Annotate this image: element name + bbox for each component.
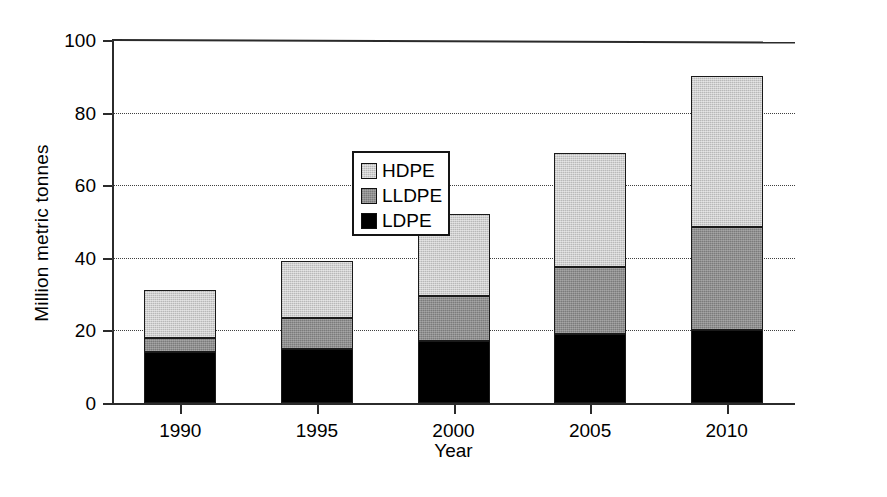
y-axis-tick [103, 330, 112, 332]
chart-figure: Million metric tonnes 020406080100 19901… [0, 0, 887, 497]
legend-item[interactable]: HDPE [361, 158, 448, 183]
y-axis-tick [103, 113, 112, 115]
legend-item[interactable]: LLDPE [361, 183, 448, 208]
y-axis-tick-label: 80 [46, 104, 96, 123]
legend-swatch-hdpe-icon [361, 163, 377, 179]
x-axis-tick [727, 403, 729, 414]
y-axis-tick [103, 403, 112, 405]
y-axis-tick-label: 40 [46, 249, 96, 268]
bar-segment-lldpe[interactable] [691, 227, 763, 330]
y-axis-tick [103, 258, 112, 260]
x-axis-tick-label: 1990 [120, 420, 240, 442]
x-axis-tick [590, 403, 592, 414]
bar-group[interactable] [691, 40, 763, 403]
plot-area: 020406080100 19901995200020052010 HDPE L… [112, 40, 795, 403]
x-axis-tick [317, 403, 319, 414]
x-axis-tick-label: 2000 [394, 420, 514, 442]
bar-segment-hdpe[interactable] [554, 153, 626, 267]
y-axis-tick-label: 20 [46, 321, 96, 340]
y-axis-tick-label: 0 [46, 394, 96, 413]
x-axis-tick [180, 403, 182, 414]
y-axis-line [112, 40, 114, 403]
bar-segment-lldpe[interactable] [554, 267, 626, 334]
y-axis-tick-label: 60 [46, 176, 96, 195]
y-axis-tick [103, 40, 112, 42]
x-axis-title: Year [112, 440, 795, 462]
y-axis-tick [103, 185, 112, 187]
x-axis-tick-label: 2005 [530, 420, 650, 442]
legend-label: LDPE [382, 211, 432, 230]
x-axis-tick-label: 1995 [257, 420, 377, 442]
bar-group[interactable] [281, 40, 353, 403]
x-axis-tick-label: 2010 [667, 420, 787, 442]
bar-segment-ldpe[interactable] [554, 334, 626, 403]
bar-segment-ldpe[interactable] [144, 352, 216, 403]
legend-label: HDPE [382, 161, 435, 180]
bar-segment-hdpe[interactable] [691, 76, 763, 227]
legend-swatch-ldpe-icon [361, 213, 377, 229]
legend-swatch-lldpe-icon [361, 188, 377, 204]
bar-segment-lldpe[interactable] [144, 338, 216, 353]
x-axis-tick [454, 403, 456, 414]
bar-segment-lldpe[interactable] [418, 296, 490, 341]
legend-label: LLDPE [382, 186, 442, 205]
legend: HDPE LLDPE LDPE [352, 151, 450, 236]
bar-segment-ldpe[interactable] [691, 330, 763, 403]
bar-segment-hdpe[interactable] [281, 261, 353, 317]
bar-group[interactable] [144, 40, 216, 403]
bar-segment-hdpe[interactable] [144, 290, 216, 337]
bar-segment-ldpe[interactable] [281, 349, 353, 403]
legend-item[interactable]: LDPE [361, 208, 448, 233]
bar-segment-lldpe[interactable] [281, 318, 353, 349]
bar-group[interactable] [554, 40, 626, 403]
bar-segment-ldpe[interactable] [418, 341, 490, 403]
y-axis-tick-label: 100 [46, 31, 96, 50]
